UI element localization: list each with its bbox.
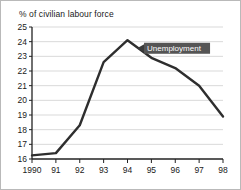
unemployment-annotation: Unemployment	[137, 43, 210, 54]
y-axis-tick-labels: 25242322212019181716	[18, 22, 28, 164]
x-tick-label: 1990	[23, 165, 42, 175]
y-tick-label: 25	[18, 22, 28, 32]
x-axis-tick-labels: 19909192939495969798	[23, 165, 228, 175]
unemployment-line-chart: % of civilian labour force 2524232221201…	[0, 0, 241, 190]
plot-area: 25242322212019181716 1990919293949596979…	[1, 1, 241, 190]
y-tick-label: 23	[18, 51, 28, 61]
y-tick-label: 21	[18, 81, 28, 91]
x-tick-label: 98	[218, 165, 228, 175]
x-tick-label: 97	[194, 165, 204, 175]
y-tick-label: 19	[18, 110, 28, 120]
y-tick-label: 16	[18, 154, 28, 164]
annotation-label: Unemployment	[147, 44, 202, 53]
x-tick-label: 92	[75, 165, 85, 175]
y-tick-label: 18	[18, 125, 28, 135]
y-tick-label: 17	[18, 139, 28, 149]
y-tick-label: 24	[18, 37, 28, 47]
x-tick-label: 94	[123, 165, 133, 175]
x-tick-label: 95	[147, 165, 157, 175]
x-tick-label: 91	[51, 165, 61, 175]
y-tick-label: 22	[18, 66, 28, 76]
unemployment-series-line	[32, 40, 223, 155]
x-tick-label: 93	[99, 165, 109, 175]
x-tick-label: 96	[171, 165, 181, 175]
y-tick-label: 20	[18, 95, 28, 105]
